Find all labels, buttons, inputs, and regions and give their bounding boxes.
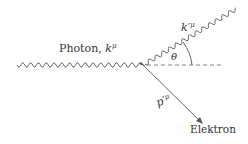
scattered-photon-label: k′μ <box>181 21 195 34</box>
compton-diagram: Photon, kμ k′μ θ p′μ Elektron <box>0 0 248 144</box>
incoming-photon-label: Photon, kμ <box>59 42 117 55</box>
angle-label: θ <box>171 51 177 62</box>
electron-momentum-label: p′μ <box>154 92 172 109</box>
incoming-photon-line <box>17 63 142 67</box>
electron-label: Elektron <box>190 123 236 135</box>
electron-line <box>143 65 201 122</box>
angle-arc <box>183 42 192 65</box>
